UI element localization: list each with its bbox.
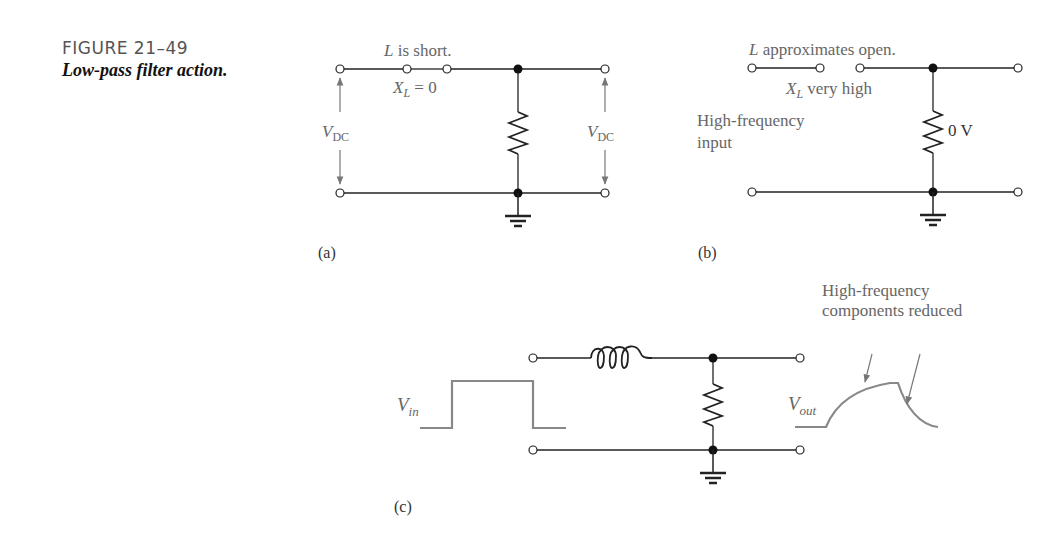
input-pulse-waveform-icon <box>420 381 566 428</box>
resistor-icon <box>509 112 527 154</box>
input-voltage-label: VDC <box>322 122 349 144</box>
junction-dot-icon <box>929 64 938 73</box>
junction-dot-icon <box>514 65 523 74</box>
reactance-high-label: XL very high <box>785 79 873 101</box>
terminal-icon <box>816 64 824 72</box>
circuit-diagrams: L is short. XL = 0 VDC VDC (a) L approxi… <box>0 0 1064 535</box>
inductor-open-note: L approximates open. <box>748 40 896 59</box>
terminal-icon <box>529 446 537 454</box>
inductor-short-note: L is short. <box>383 41 452 60</box>
terminal-icon <box>748 188 756 196</box>
terminal-icon <box>1014 188 1022 196</box>
terminal-icon <box>336 189 344 197</box>
terminal-icon <box>443 65 451 73</box>
terminal-icon <box>403 65 411 73</box>
terminal-icon <box>796 354 804 362</box>
terminal-icon <box>529 354 537 362</box>
resistor-voltage-label: 0 V <box>948 121 973 140</box>
annotation-arrow-icon <box>865 354 872 382</box>
high-frequency-input-label: High-frequency input <box>697 111 809 152</box>
panel-b-circuit: L approximates open. XL very high High-f… <box>697 40 1022 262</box>
terminal-icon <box>856 64 864 72</box>
terminal-icon <box>601 65 609 73</box>
junction-dot-icon <box>709 354 718 363</box>
terminal-icon <box>748 64 756 72</box>
terminal-icon <box>1014 64 1022 72</box>
input-voltage-label: Vin <box>397 394 419 419</box>
output-voltage-label: VDC <box>587 122 614 144</box>
panel-c-circuit: Vin Vout High-frequency components reduc… <box>394 281 963 516</box>
terminal-icon <box>336 65 344 73</box>
resistor-icon <box>924 111 942 153</box>
annotation-arrow-icon <box>907 354 920 404</box>
panel-c-label: (c) <box>394 498 412 516</box>
ground-icon <box>920 192 946 225</box>
resistor-icon <box>704 384 722 426</box>
inductor-icon <box>591 346 652 368</box>
high-frequency-annotation: High-frequency components reduced <box>822 281 963 320</box>
ground-icon <box>700 450 726 483</box>
output-filtered-waveform-icon <box>795 383 938 427</box>
terminal-icon <box>601 189 609 197</box>
panel-b-label: (b) <box>698 244 717 262</box>
output-voltage-label: Vout <box>788 393 817 418</box>
terminal-icon <box>796 446 804 454</box>
panel-a-label: (a) <box>318 244 336 262</box>
ground-icon <box>505 193 531 226</box>
panel-a-circuit: L is short. XL = 0 VDC VDC (a) <box>318 41 614 262</box>
reactance-zero-label: XL = 0 <box>392 78 437 100</box>
